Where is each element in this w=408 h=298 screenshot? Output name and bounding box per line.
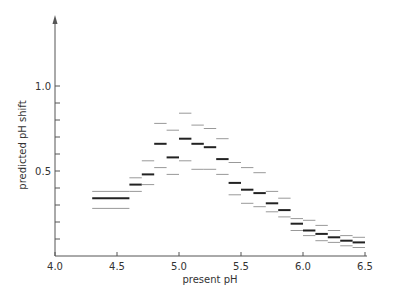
x-axis-label: present pH — [182, 274, 237, 285]
x-tick-label: 6.5 — [357, 261, 373, 272]
x-tick-label: 4.5 — [109, 261, 125, 272]
data-bars — [92, 113, 365, 247]
x-tick-label: 5.5 — [233, 261, 249, 272]
chart: 4.04.55.05.56.06.50.51.0 present pH pred… — [0, 0, 408, 298]
y-tick-label: 1.0 — [35, 81, 51, 92]
y-axis-arrow-icon — [53, 15, 58, 24]
y-tick-label: 0.5 — [35, 166, 51, 177]
y-axis-label: predicted pH shift — [17, 100, 28, 189]
x-tick-label: 4.0 — [47, 261, 63, 272]
x-tick-label: 6.0 — [295, 261, 311, 272]
x-tick-label: 5.0 — [171, 261, 187, 272]
